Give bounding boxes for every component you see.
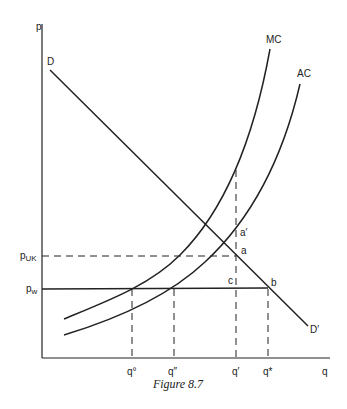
y-axis-label: p [36, 21, 42, 32]
q-prime-label: q′ [232, 366, 240, 377]
mc-curve [64, 49, 270, 319]
p-uk-label: pUK [20, 250, 37, 263]
ac-label: AC [297, 68, 311, 79]
ac-curve [64, 84, 300, 335]
demand-end-label: D′ [310, 324, 319, 335]
demand-start-label: D [47, 56, 54, 67]
diagram-canvas: p q D D′ MC AC pUK pw a′ a c b q° q″ q′ … [0, 0, 347, 409]
x-axis-label: q [322, 366, 328, 377]
p-w-line [42, 288, 268, 289]
q-double-prime-label: q″ [168, 366, 178, 377]
point-c-label: c [228, 275, 233, 286]
point-b-label: b [271, 277, 277, 288]
mc-label: MC [266, 34, 282, 45]
point-a-label: a [241, 245, 247, 256]
p-w-label: pw [26, 283, 38, 296]
q0-label: q° [127, 366, 137, 377]
figure-caption: Figure 8.7 [152, 377, 204, 391]
q-star-label: q* [263, 366, 273, 377]
point-a-prime-label: a′ [240, 227, 248, 238]
